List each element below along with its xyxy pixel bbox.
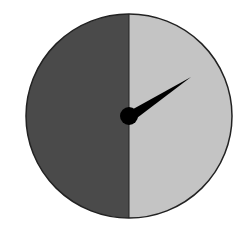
spinner-left-half [26,14,129,218]
spinner-svg [0,0,246,229]
spinner-right-half [129,14,232,218]
spinner-diagram [0,0,246,229]
spinner-hub [120,107,138,125]
